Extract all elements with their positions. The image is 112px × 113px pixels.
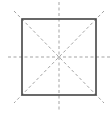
square-symmetry-diagram: [0, 0, 112, 113]
